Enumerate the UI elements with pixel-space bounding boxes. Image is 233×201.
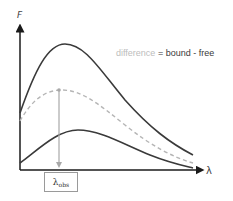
diagram-canvas [0,0,233,201]
lambda-obs-label-box: λobs [44,172,78,192]
lambda-obs-sub: obs [59,181,70,188]
difference-curve [20,90,193,163]
free-curve [20,130,193,168]
bound-curve [20,44,193,155]
x-axis-label: λ [206,165,212,176]
y-axis-label: F [17,10,22,20]
legend-equation: = bound - free [155,48,214,58]
legend-text: difference = bound - free [116,48,214,58]
legend-difference: difference [116,48,155,58]
